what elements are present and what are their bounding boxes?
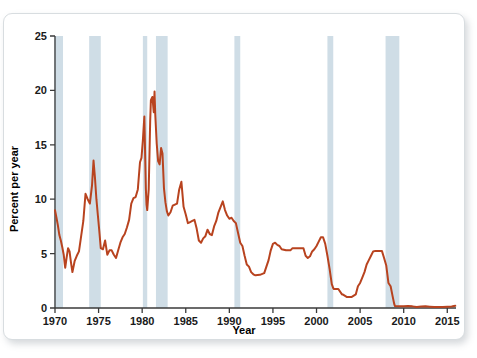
x-tick-label: 1995 xyxy=(261,315,285,327)
y-tick-label: 25 xyxy=(35,30,47,42)
x-tick-label: 1985 xyxy=(174,315,198,327)
x-tick-label: 2015 xyxy=(435,315,459,327)
chart-plot: 0510152025 19701975198019851990199520002… xyxy=(4,14,465,340)
y-axis-title: Percent per year xyxy=(8,145,20,232)
y-tick-label: 15 xyxy=(35,139,47,151)
figure-card: 0510152025 19701975198019851990199520002… xyxy=(3,13,465,340)
x-tick-label: 1980 xyxy=(130,315,154,327)
x-tick-label: 2000 xyxy=(304,315,328,327)
x-axis-title: Year xyxy=(232,324,256,336)
x-tick-label: 2005 xyxy=(348,315,372,327)
recession-bands-group xyxy=(54,36,399,308)
recession-band xyxy=(234,36,240,308)
recession-band xyxy=(156,36,168,308)
x-tick-label: 1975 xyxy=(86,315,110,327)
y-tick-label: 5 xyxy=(41,248,47,260)
y-tick-label: 0 xyxy=(41,302,47,314)
x-tick-label: 1970 xyxy=(43,315,67,327)
recession-band xyxy=(386,36,400,308)
y-tick-label: 10 xyxy=(35,193,47,205)
y-tick-label: 20 xyxy=(35,84,47,96)
x-tick-label: 2010 xyxy=(391,315,415,327)
y-ticks-group: 0510152025 xyxy=(35,30,55,314)
